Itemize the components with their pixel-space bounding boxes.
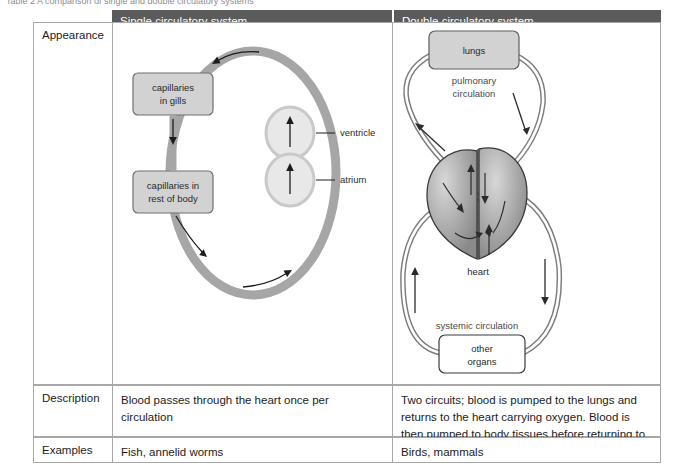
- description-single: Blood passes through the heart once per …: [112, 385, 393, 437]
- single-circulation-svg: ventricle atrium capillaries in gills ca…: [113, 23, 392, 384]
- systemic-label: systemic circulation: [436, 320, 518, 331]
- figure-caption-text: Table 2 A comparison of single and doubl…: [6, 0, 694, 6]
- other-organs-label-line1: other: [471, 343, 493, 354]
- capillaries-body-label-line1: capillaries in: [147, 180, 199, 191]
- row-label-examples: Examples: [33, 437, 113, 463]
- examples-single: Fish, annelid worms: [112, 437, 393, 463]
- double-circulation-diagram: lungs pulmonary circulation: [392, 22, 661, 385]
- comparison-table: Single circulatory system Double circula…: [33, 10, 661, 460]
- pulmonary-label-line1: pulmonary: [452, 75, 497, 86]
- figure-caption: Table 2 A comparison of single and doubl…: [0, 0, 694, 9]
- double-circulation-svg: lungs pulmonary circulation: [393, 23, 660, 384]
- other-organs-label-line2: organs: [467, 356, 496, 367]
- capillaries-gills-label-line1: capillaries: [152, 82, 194, 93]
- examples-double: Birds, mammals: [392, 437, 661, 463]
- atrium-label: atrium: [340, 174, 366, 185]
- heart-label: heart: [467, 266, 489, 277]
- single-circulation-diagram: ventricle atrium capillaries in gills ca…: [112, 22, 393, 385]
- ventricle-label: ventricle: [340, 127, 375, 138]
- description-double: Two circuits; blood is pumped to the lun…: [392, 385, 661, 437]
- capillaries-body-label-line2: rest of body: [148, 193, 198, 204]
- capillaries-gills-label-line2: in gills: [160, 95, 187, 106]
- row-label-description: Description: [33, 385, 113, 437]
- pulmonary-label-line2: circulation: [453, 88, 496, 99]
- row-label-appearance: Appearance: [33, 22, 113, 385]
- lungs-label: lungs: [463, 45, 486, 56]
